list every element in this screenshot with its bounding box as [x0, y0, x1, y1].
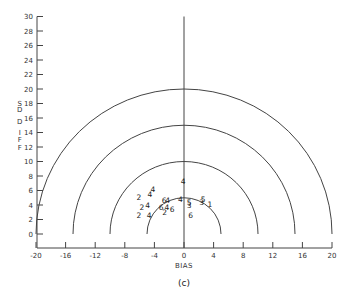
y-tick-label: 18 [24, 100, 33, 108]
x-tick-label: -8 [121, 252, 128, 260]
x-tick-label: 12 [268, 252, 277, 260]
data-point: 4 [147, 211, 152, 220]
data-point: 3 [199, 198, 204, 207]
data-point: 4 [148, 190, 153, 199]
y-tick-label: 4 [29, 202, 34, 210]
y-tick-label: 28 [24, 28, 33, 36]
y-axis-ticks: 024681012141618202224262830 [24, 13, 43, 239]
data-point: 4 [145, 201, 150, 210]
y-tick-label: 6 [29, 187, 34, 195]
y-tick-label: 2 [29, 216, 33, 224]
y-tick-label: 30 [24, 13, 33, 21]
y-tick-label: 22 [24, 71, 33, 79]
y-tick-label: 10 [24, 158, 33, 166]
x-tick-label: 8 [241, 252, 245, 260]
data-point: 2 [136, 211, 141, 220]
y-tick-label: 0 [29, 231, 33, 239]
y-axis-label-letter: D [17, 106, 23, 114]
figure-caption: (c) [178, 278, 190, 288]
x-tick-label: -12 [89, 252, 100, 260]
data-point: 3 [187, 201, 192, 210]
y-tick-label: 24 [24, 57, 33, 65]
data-point: 2 [162, 208, 167, 217]
data-point: 2 [136, 193, 141, 202]
y-tick-label: 14 [24, 129, 33, 137]
data-point: 6 [188, 211, 193, 220]
y-tick-label: 8 [29, 173, 33, 181]
data-point: 4 [178, 195, 183, 204]
x-axis-label: BIAS [175, 262, 193, 270]
y-axis-label-letter: F [18, 144, 23, 152]
data-point: 6 [170, 205, 175, 214]
x-tick-label: 20 [328, 252, 337, 260]
y-axis-label: SDDIFF [17, 100, 23, 152]
x-tick-label: -16 [60, 252, 72, 260]
x-tick-label: -20 [30, 252, 41, 260]
x-tick-label: 4 [211, 252, 216, 260]
x-tick-label: 16 [298, 252, 307, 260]
y-tick-label: 20 [24, 86, 33, 94]
x-axis-ticks: -20-16-12-8-4048121620 [30, 242, 336, 260]
chart: 024681012141618202224262830 -20-16-12-8-… [0, 0, 354, 304]
y-tick-label: 12 [24, 144, 33, 152]
x-tick-label: 0 [182, 252, 186, 260]
y-axis-label-letter: D [17, 118, 23, 126]
data-point: 1 [208, 200, 213, 209]
y-tick-label: 26 [24, 42, 33, 50]
x-tick-label: -4 [151, 252, 159, 260]
y-tick-label: 16 [24, 115, 33, 123]
data-point: 4 [181, 177, 186, 186]
